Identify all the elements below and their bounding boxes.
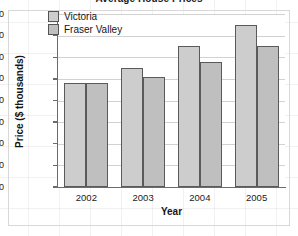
y-tick-label: 200 bbox=[0, 96, 4, 105]
y-tick-label: 300 bbox=[0, 53, 4, 62]
bar-victoria-2004 bbox=[178, 46, 200, 187]
bar-fraser-valley-2005 bbox=[257, 46, 279, 187]
y-tick-label: 50 bbox=[0, 161, 4, 170]
y-tick-mark bbox=[53, 143, 58, 144]
y-tick-label: 100 bbox=[0, 139, 4, 148]
x-axis-title: Year bbox=[58, 206, 285, 217]
x-tick-label: 2002 bbox=[66, 192, 106, 203]
bar-chart: Average House Prices 0501001502002503003… bbox=[0, 0, 298, 236]
bar-fraser-valley-2003 bbox=[143, 77, 165, 187]
x-tick-label: 2004 bbox=[180, 192, 220, 203]
bar-fraser-valley-2002 bbox=[86, 83, 108, 187]
y-tick-label: 0 bbox=[0, 183, 4, 192]
plot-area bbox=[58, 14, 285, 187]
chart-title: Average House Prices bbox=[0, 0, 298, 4]
y-tick-label: 150 bbox=[0, 118, 4, 127]
y-tick-mark bbox=[53, 165, 58, 166]
x-tick-label: 2003 bbox=[123, 192, 163, 203]
legend-item-fraser-valley[interactable]: Fraser Valley bbox=[48, 24, 122, 35]
y-tick-mark bbox=[53, 186, 58, 187]
bar-victoria-2002 bbox=[64, 83, 86, 187]
legend-label: Fraser Valley bbox=[64, 24, 122, 35]
bar-victoria-2003 bbox=[121, 68, 143, 187]
y-tick-label: 400 bbox=[0, 10, 4, 19]
legend-swatch-icon bbox=[48, 11, 59, 22]
legend-swatch-icon bbox=[48, 24, 59, 35]
legend-item-victoria[interactable]: Victoria bbox=[48, 11, 122, 22]
chart-legend: VictoriaFraser Valley bbox=[48, 11, 122, 35]
y-tick-mark bbox=[53, 121, 58, 122]
y-axis-title: Price ($ thousands) bbox=[14, 37, 25, 167]
y-tick-mark bbox=[53, 100, 58, 101]
x-tick-label: 2005 bbox=[237, 192, 277, 203]
y-tick-mark bbox=[53, 35, 58, 36]
legend-label: Victoria bbox=[64, 11, 97, 22]
bar-fraser-valley-2004 bbox=[200, 62, 222, 187]
y-tick-label: 350 bbox=[0, 31, 4, 40]
y-tick-mark bbox=[53, 78, 58, 79]
y-tick-label: 250 bbox=[0, 74, 4, 83]
bar-victoria-2005 bbox=[235, 25, 257, 187]
y-tick-mark bbox=[53, 57, 58, 58]
